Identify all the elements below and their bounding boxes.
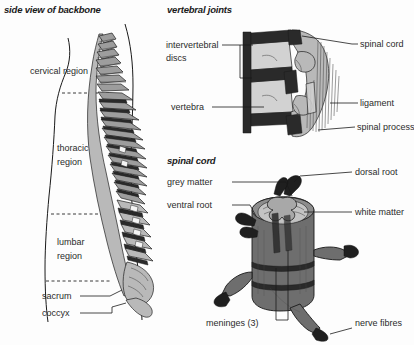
label-vertebra: vertebra bbox=[171, 102, 204, 113]
spinal-cord-panel-title: spinal cord bbox=[167, 155, 215, 166]
vertebral-joints-illustration bbox=[243, 30, 339, 137]
label-cervical-region: cervical region bbox=[30, 66, 88, 77]
label-coccyx: coccyx bbox=[42, 308, 70, 319]
label-lumbar-region-line1: lumbar bbox=[57, 237, 85, 248]
backbone-leader-lines bbox=[80, 290, 126, 313]
sacrum-shape bbox=[123, 262, 153, 305]
label-nerve-fibres: nerve fibres bbox=[355, 318, 402, 329]
label-grey-matter: grey matter bbox=[167, 177, 213, 188]
coccyx-shape bbox=[126, 298, 152, 317]
meninges-band-1 bbox=[252, 261, 314, 271]
label-dorsal-root: dorsal root bbox=[355, 167, 398, 178]
leader-spinal-process bbox=[318, 127, 355, 130]
label-spinal-process: spinal process bbox=[357, 122, 414, 133]
leader-spinal-cord bbox=[302, 36, 352, 44]
leader-intervertebral-discs-b bbox=[232, 45, 252, 78]
backbone-panel-title: side view of backbone bbox=[4, 4, 101, 15]
leader-nerve-fibres bbox=[330, 328, 352, 334]
dorsal-root-shape bbox=[284, 176, 301, 196]
label-sacrum: sacrum bbox=[42, 291, 72, 302]
label-thoracic-region-line1: thoracic bbox=[57, 143, 89, 154]
vertebral-column-illustration bbox=[88, 33, 154, 317]
label-intervertebral-discs-line1: intervertebral bbox=[166, 40, 219, 51]
vertebral-joints-leader-lines bbox=[212, 36, 358, 130]
label-ventral-root: ventral root bbox=[167, 200, 212, 211]
label-ligament: ligament bbox=[360, 98, 394, 109]
label-meninges: meninges (3) bbox=[206, 318, 259, 329]
label-white-matter: white matter bbox=[355, 207, 404, 218]
label-spinal-cord-joint: spinal cord bbox=[360, 39, 404, 50]
leader-grey-matter bbox=[232, 182, 292, 196]
spinal-cord-leader-lines bbox=[232, 172, 352, 334]
anatomy-diagram-figure: side view of backbone bbox=[0, 0, 414, 345]
leader-coccyx bbox=[80, 303, 126, 313]
spinal-cord-illustration bbox=[214, 176, 359, 342]
leader-dorsal-root bbox=[294, 172, 352, 182]
label-thoracic-region-line2: region bbox=[57, 157, 82, 168]
leader-sacrum bbox=[80, 290, 122, 296]
label-intervertebral-discs-line2: discs bbox=[166, 53, 187, 64]
vertebral-joints-panel-title: vertebral joints bbox=[167, 4, 232, 15]
ventral-root-shape bbox=[235, 213, 256, 226]
label-lumbar-region-line2: region bbox=[57, 251, 82, 262]
grey-matter-shape bbox=[267, 197, 296, 221]
meninges-band-2 bbox=[252, 280, 314, 290]
leader-ventral-root bbox=[232, 205, 256, 216]
